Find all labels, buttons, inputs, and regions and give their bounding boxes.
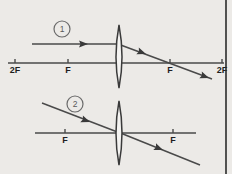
step-badge-label-2: 2 <box>73 99 78 109</box>
arrowhead-refracted-a-1 <box>136 47 147 57</box>
converging-lens-1 <box>116 25 122 88</box>
axis-label-f-right-2: F <box>170 135 176 145</box>
axis-label-2f-left-1: 2F <box>10 65 21 75</box>
axis-label-f-right-1: F <box>167 65 173 75</box>
arrowhead-emergent-2 <box>153 143 164 153</box>
arrowhead-incident-2 <box>80 115 91 125</box>
converging-lens-2 <box>116 101 122 165</box>
step-badge-label-1: 1 <box>60 24 65 34</box>
arrowhead-refracted-b-1 <box>199 71 210 81</box>
refracted-ray-1 <box>118 44 212 79</box>
axis-label-f-left-2: F <box>62 135 68 145</box>
diagram-1-group: 2F F F 2F 1 <box>8 21 228 88</box>
diagram-2-group: F F 2 <box>35 96 200 165</box>
center-ray-incident-2 <box>42 103 120 133</box>
ray-diagram-canvas: 2F F F 2F 1 <box>0 0 232 174</box>
ray-diagram-figure: 2F F F 2F 1 <box>0 0 232 174</box>
axis-label-f-left-1: F <box>65 65 71 75</box>
